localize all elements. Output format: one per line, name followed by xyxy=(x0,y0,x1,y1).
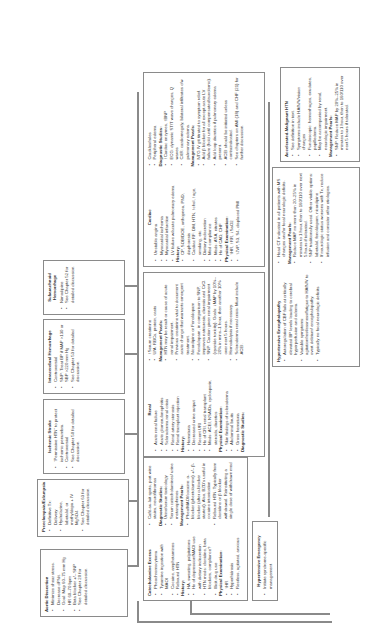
list-item: CP, SOB/DOE, orthopnea, PND, diaphoresis xyxy=(180,173,191,263)
list-item: Initiate syndrome-specific management xyxy=(262,526,273,596)
connector-aortic xyxy=(128,565,138,567)
box-title: Subarachnoid Hemorrhage xyxy=(47,265,58,310)
list-item: Previous creatinine vital to document ac… xyxy=(174,277,190,362)
box-title: Hypertensive Encephalopathy xyxy=(276,270,281,362)
subarachnoid-hemorrhage-box: Subarachnoid Hemorrhage Nimodipine See C… xyxy=(43,260,125,315)
box-title: Preeclampsia/Eclampsia xyxy=(41,484,46,532)
list-item: Add loop diuretics if pulmonary edema pr… xyxy=(212,77,223,167)
connector-catechol xyxy=(137,601,139,623)
list-item: SNP traditionally used. Other viable opt… xyxy=(308,172,319,264)
cardiac-box: Cardiac Unstable angina Myocardial ische… xyxy=(143,72,265,267)
hypertensive-emergency-box: Hypertensive Emergency Initiate syndrome… xyxy=(252,521,278,601)
list-item: Peripheral edema xyxy=(152,77,157,167)
connector-cardiac-branch xyxy=(190,601,192,615)
connector-top-bus xyxy=(137,92,139,567)
connector-intracerebral xyxy=(124,353,138,355)
list-item: U/A: RBCs, protein, casts xyxy=(152,277,157,362)
list-item: Fenoldopam, in comparison to SNP, improv… xyxy=(196,277,207,362)
box-title: Aortic Dissection xyxy=(44,554,49,612)
list-item: Add β blocker for all except acute LV fa… xyxy=(201,77,212,167)
list-item: SNP: Reduce MAP by 20%–25% in minutes to… xyxy=(334,72,350,157)
box-title: Accelerated-Malignant HTN xyxy=(284,72,289,157)
list-item: SNP: Treat BP if MAP >130 or SBP >220 mm… xyxy=(59,324,70,389)
list-item: HTN meds: clonidine, beta blockers, comp… xyxy=(202,532,213,596)
diagram-canvas: Aortic Dissection Minimize shear stress.… xyxy=(0,0,379,637)
box-title: Cardiac xyxy=(147,173,152,263)
intracerebral-hemorrhage-box: Intracerebral Hemorrhage Controversial S… xyxy=(43,319,125,394)
list-item: See Chapter 20 for detailed discussion. xyxy=(77,554,88,612)
preeclampsia-box: Preeclampsia/Eclampsia Definitive Tx: De… xyxy=(37,479,129,537)
list-item: “Permissive HTN” to protect ischemic pen… xyxy=(53,404,64,469)
list-item: HTN may be result or cause of acute rena… xyxy=(163,277,174,362)
list-item: See Chapter 63 for detailed discussion. xyxy=(80,484,91,532)
list-item: Scleroderma renal crisis: Must include A… xyxy=(234,277,245,362)
catecholamine-excess-box: Catecholamine Excess Pheochromocytoma Ty… xyxy=(143,457,248,601)
connector-preeclampsia xyxy=(128,500,138,502)
hypertensive-encephalopathy-box: Hypertensive Encephalopathy Autoregulati… xyxy=(272,167,360,367)
list-item: SNP: Caution given renal impairment (cya… xyxy=(206,277,228,362)
list-item: Hx of depression/MAOI use with dietary i… xyxy=(191,532,202,596)
box-title: Catecholamine Excess xyxy=(147,532,152,596)
list-item: Tyramine ingestion with MAOI xyxy=(159,532,170,596)
list-item: Minimize shear stress. Decrease dP/dt. xyxy=(50,554,61,612)
list-item: See Chapter 52 for detailed discussion. xyxy=(64,265,75,310)
renal-box: Renal Acute renal failure Acute glomerul… xyxy=(143,272,265,457)
list-item: Meds: ACEI, NSAIDs, cyclosporin, steroid… xyxy=(207,368,218,453)
box-title: Renal xyxy=(147,368,152,453)
list-item: LV failure w/acute pulmonary edema xyxy=(170,173,175,263)
list-item: Rebound HTN xyxy=(175,532,180,596)
list-item: Typically no focal neurologic deficits. xyxy=(315,270,320,362)
list-item: Head CT indicated in all patients with M… xyxy=(276,172,287,264)
list-item: May be accompanied by renal, neurologic … xyxy=(317,72,328,157)
list-item: Café-au-lait spots, port wine stains, ne… xyxy=(147,462,158,526)
list-item: Definitive Tx: Delivery xyxy=(47,484,58,532)
list-item: Illicit drug use xyxy=(213,532,218,596)
list-item: Hydralazine, labetalol, or methyldopa + … xyxy=(58,484,80,532)
list-item: See chapters on AMI (18) and CHF (21) fo… xyxy=(234,77,245,167)
list-item: Cardiac RF: DM, HTN, ↑chol, ↑age, smokin… xyxy=(191,173,202,263)
box-title: Ischemic Stroke xyxy=(47,404,52,469)
ischemic-stroke-box: Ischemic Stroke “Permissive HTN” to prot… xyxy=(43,399,125,474)
list-item: ECG: dynamic ST/T wave changes, Q waves xyxy=(169,77,180,167)
connector-left-spine xyxy=(137,621,332,623)
list-item: Reduce MAP no more than 20–25% in minute… xyxy=(292,172,308,264)
list-item: Goal: Map 60–75 mm Hg HR 60–70 bpm xyxy=(61,554,72,612)
list-item: If neurologic status worsens with Tx, re… xyxy=(319,172,330,264)
list-item: Hx of CAD, CHF xyxy=(218,173,223,263)
list-item: Symptoms include HA/N/V/vision changes xyxy=(296,72,307,157)
list-item: See Chapter 50 for detailed discussion. xyxy=(70,404,81,469)
list-item: Renal transplant rejection xyxy=(175,368,180,453)
aortic-dissection-box: Aortic Dissection Minimize shear stress.… xyxy=(40,549,128,617)
section-label: Diagnostic Studies: xyxy=(240,368,245,453)
list-item: Restless, agitated, anxious xyxy=(235,532,240,596)
connector-left-spine-2 xyxy=(190,613,330,615)
accelerated-malignant-htn-box: Accelerated-Malignant HTN See definition… xyxy=(280,67,360,162)
box-title: Intracerebral Hemorrhage xyxy=(47,324,52,389)
list-item: Fundoscopic: hemorrhages, exudates, papi… xyxy=(307,72,318,157)
list-item: Gross hematuria xyxy=(235,368,240,453)
list-item: Autoregulation of CBF fails at criticall… xyxy=(282,270,298,362)
connector-bottom-bus xyxy=(268,102,270,517)
list-item: ↑JVP, S3, S4, displaced PMI xyxy=(235,173,240,263)
list-item: Pheo/MAOI/cocaine: α-blocker (phentolami… xyxy=(185,462,212,526)
connector-subarachnoid xyxy=(124,285,138,287)
list-item: Serum catecholamines/ urine metanephrine… xyxy=(169,462,180,526)
list-item: CXR: cardiomegaly, bilateral infiltrates… xyxy=(179,77,190,167)
list-item: ACEI should be initiated unless contrain… xyxy=(223,77,234,167)
connector-ischemic xyxy=(124,433,138,435)
list-item: See Chapter 53 for detailed discussion. xyxy=(70,324,81,389)
list-item: Variable symptoms: agitation/restlessnes… xyxy=(299,270,315,362)
root-title: Hypertensive Emergency xyxy=(256,526,261,596)
